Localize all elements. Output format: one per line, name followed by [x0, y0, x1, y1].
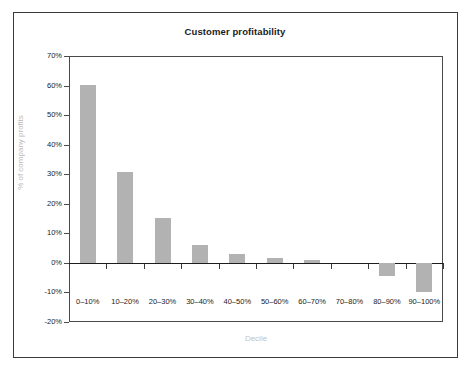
y-tick-label: 60%	[18, 81, 62, 90]
x-tick-label: 90–100%	[408, 297, 440, 306]
bar	[379, 263, 395, 276]
x-axis-title: Decile	[69, 334, 443, 343]
y-tick-mark	[64, 204, 69, 205]
x-tick-label: 10–20%	[111, 297, 139, 306]
bar	[267, 258, 283, 263]
x-tick-label: 20–30%	[149, 297, 177, 306]
y-tick-label: 50%	[18, 110, 62, 119]
y-tick-label: 20%	[18, 199, 62, 208]
x-tick-label: 0–10%	[76, 297, 99, 306]
x-tick-label: 80–90%	[373, 297, 401, 306]
bar	[80, 85, 96, 263]
x-tick-label: 70–80%	[336, 297, 364, 306]
x-tick-label: 60–70%	[298, 297, 326, 306]
bar	[416, 263, 432, 293]
y-tick-mark	[64, 115, 69, 116]
chart-figure: Customer profitability % of company prof…	[0, 0, 470, 371]
y-tick-label: -10%	[18, 287, 62, 296]
y-tick-mark	[64, 86, 69, 87]
y-tick-label: 30%	[18, 169, 62, 178]
x-tick-label: 50–60%	[261, 297, 289, 306]
x-tick-label: 40–50%	[224, 297, 252, 306]
y-tick-label: 70%	[18, 51, 62, 60]
bar	[229, 254, 245, 263]
bar	[192, 245, 208, 263]
y-tick-mark	[64, 233, 69, 234]
x-tick-mark	[443, 263, 444, 269]
y-tick-label: 40%	[18, 140, 62, 149]
y-tick-mark	[64, 174, 69, 175]
y-tick-label: -20%	[18, 317, 62, 326]
x-tick-label: 30–40%	[186, 297, 214, 306]
bar	[304, 260, 320, 263]
y-tick-mark	[64, 292, 69, 293]
y-tick-mark	[64, 56, 69, 57]
y-tick-label: 0%	[18, 258, 62, 267]
bar	[117, 172, 133, 262]
y-tick-mark	[64, 322, 69, 323]
y-tick-mark	[64, 145, 69, 146]
y-tick-label: 10%	[18, 228, 62, 237]
bar	[155, 218, 171, 263]
chart-title: Customer profitability	[0, 26, 470, 37]
y-axis-title: % of company profits	[16, 73, 25, 233]
